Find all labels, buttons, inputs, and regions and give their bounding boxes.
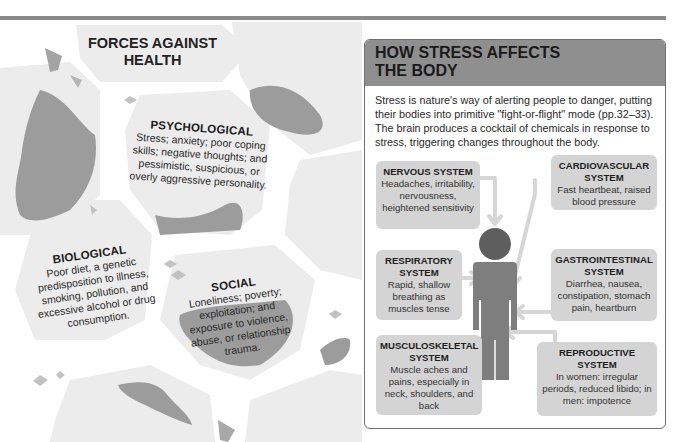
system-title: RESPIRATORY SYSTEM [380, 255, 458, 279]
system-text: Muscle aches and pains, especially in ne… [385, 364, 474, 411]
how-stress-affects-body-panel: HOW STRESS AFFECTS THE BODY Stress is na… [364, 39, 666, 429]
system-title: GASTROINTESTINAL SYSTEM [555, 254, 653, 278]
system-respiratory: RESPIRATORY SYSTEM Rapid, shallow breath… [376, 250, 462, 320]
forces-title-line2: HEALTH [80, 52, 225, 69]
force-text: Poor diet, a genetic predisposition to i… [37, 255, 156, 329]
system-musculoskeletal: MUSCULOSKELETAL SYSTEM Muscle aches and … [376, 335, 482, 415]
system-text: In women: irregular periods, reduced lib… [542, 371, 651, 406]
system-title: NERVOUS SYSTEM [380, 166, 476, 178]
hexagon-background-illustration [0, 20, 362, 442]
system-nervous: NERVOUS SYSTEM Headaches, irritability, … [376, 161, 480, 229]
force-text: Loneliness; poverty; exploitation; and e… [188, 285, 291, 357]
system-title: MUSCULOSKELETAL SYSTEM [380, 340, 478, 364]
system-text: Fast heartbeat, raised blood pressure [557, 184, 650, 207]
system-text: Diarrhea, nausea, constipation, stomach … [558, 278, 651, 313]
system-cardiovascular: CARDIOVASCULAR SYSTEM Fast heartbeat, ra… [551, 155, 657, 210]
force-psychological: PSYCHOLOGICAL Stress; anxiety; poor copi… [128, 117, 272, 192]
system-title: REPRODUCTIVE SYSTEM [541, 347, 653, 371]
forces-title-line1: FORCES AGAINST [80, 35, 225, 52]
force-text: Stress; anxiety; poor coping skills; neg… [129, 131, 268, 191]
system-reproductive: REPRODUCTIVE SYSTEM In women: irregular … [537, 342, 657, 416]
head-icon [479, 228, 511, 260]
forces-title: FORCES AGAINST HEALTH [80, 35, 225, 69]
system-title: CARDIOVASCULAR SYSTEM [555, 160, 653, 184]
system-text: Rapid, shallow breathing as muscles tens… [388, 279, 450, 314]
force-social: SOCIAL Loneliness; poverty; exploitation… [175, 270, 301, 363]
forces-against-health-panel: FORCES AGAINST HEALTH PSYCHOLOGICAL Stre… [0, 20, 362, 442]
system-gastrointestinal: GASTROINTESTINAL SYSTEM Diarrhea, nausea… [551, 249, 657, 321]
system-text: Headaches, irritability, nervousness, he… [381, 178, 475, 213]
